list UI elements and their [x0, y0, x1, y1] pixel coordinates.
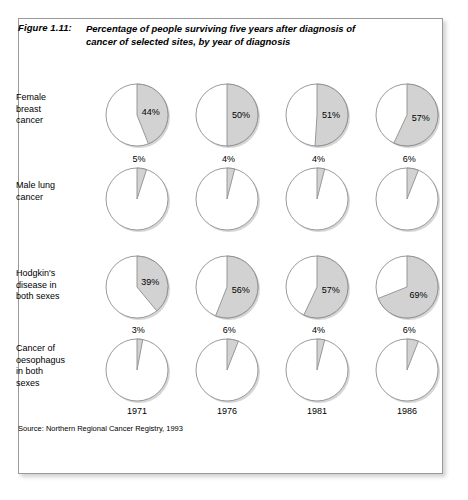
- row-label-4: Cancer ofoesophagusin bothsexes: [16, 343, 102, 389]
- pie-chart-r3-c3: 57%: [285, 255, 349, 319]
- pie-value-label: 69%: [410, 290, 428, 300]
- pie-value-label: 56%: [232, 285, 250, 295]
- pie-value-label: 57%: [412, 113, 430, 123]
- pie-chart-r4-c4: 6%: [375, 338, 439, 402]
- pie-value-label: 4%: [299, 325, 339, 335]
- pie-chart-r4-c2: 6%: [195, 338, 259, 402]
- pie-value-label: 3%: [118, 325, 158, 335]
- pie-chart-r1-c1: 44%: [105, 83, 169, 147]
- pie-value-label: 44%: [142, 107, 160, 117]
- pie-chart-r2-c3: 4%: [285, 167, 349, 231]
- row-label-line: oesophagus: [16, 355, 102, 367]
- pie-value-label: 6%: [209, 325, 249, 335]
- pie-chart-r2-c2: 4%: [195, 167, 259, 231]
- row-label-1: Femalebreastcancer: [16, 92, 102, 127]
- pie-value-label: 6%: [389, 325, 429, 335]
- pie-chart-r4-c1: 3%: [105, 338, 169, 402]
- year-label-1986: 1986: [375, 406, 439, 416]
- row-label-2: Male lungcancer: [16, 180, 102, 203]
- row-label-line: Cancer of: [16, 343, 102, 355]
- pie-chart-r3-c4: 69%: [375, 255, 439, 319]
- pie-value-label: 51%: [322, 110, 340, 120]
- pie-chart-r3-c1: 39%: [105, 255, 169, 319]
- row-label-line: Male lung: [16, 180, 102, 192]
- pie-value-label: 4%: [209, 154, 249, 164]
- row-label-line: both sexes: [16, 291, 102, 303]
- year-label-1971: 1971: [105, 406, 169, 416]
- row-label-line: Female: [16, 92, 102, 104]
- row-label-line: cancer: [16, 115, 102, 127]
- row-label-line: in both: [16, 366, 102, 378]
- row-label-line: disease in: [16, 280, 102, 292]
- row-label-3: Hodgkin'sdisease inboth sexes: [16, 268, 102, 303]
- pie-value-label: 4%: [299, 154, 339, 164]
- year-label-1976: 1976: [195, 406, 259, 416]
- row-label-line: sexes: [16, 378, 102, 390]
- row-label-line: breast: [16, 104, 102, 116]
- pie-chart-r1-c2: 50%: [195, 83, 259, 147]
- pie-chart-r1-c4: 57%: [375, 83, 439, 147]
- row-label-line: cancer: [16, 192, 102, 204]
- pie-value-label: 57%: [322, 285, 340, 295]
- pie-chart-r4-c3: 4%: [285, 338, 349, 402]
- pie-chart-r3-c2: 56%: [195, 255, 259, 319]
- pie-value-label: 50%: [232, 110, 250, 120]
- pie-value-label: 5%: [119, 154, 159, 164]
- pie-value-label: 39%: [141, 277, 159, 287]
- pie-value-label: 6%: [389, 154, 429, 164]
- figure-source: Source: Northern Regional Cancer Registr…: [18, 424, 183, 433]
- pie-chart-r1-c3: 51%: [285, 83, 349, 147]
- pie-chart-r2-c1: 5%: [105, 167, 169, 231]
- pie-chart-r2-c4: 6%: [375, 167, 439, 231]
- year-label-1981: 1981: [285, 406, 349, 416]
- pie-chart-grid: Femalebreastcancer44%50%51%57%Male lungc…: [0, 0, 425, 456]
- row-label-line: Hodgkin's: [16, 268, 102, 280]
